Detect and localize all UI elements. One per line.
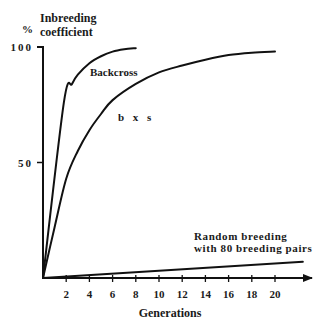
series-line-random-breeding [43, 262, 303, 278]
x-axis-title: Generations [139, 306, 202, 320]
x-tick-label: 8 [133, 288, 139, 300]
x-tick-label: 2 [63, 288, 69, 300]
x-tick-label: 10 [154, 288, 166, 300]
y-tick-label: 100 [11, 41, 34, 53]
x-tick-label: 6 [110, 288, 116, 300]
series-label-backcross: Backcross [90, 66, 138, 78]
x-tick-label: 4 [87, 288, 93, 300]
x-tick-label: 16 [223, 288, 235, 300]
x-tick-label: 12 [177, 288, 189, 300]
x-tick-label: 20 [270, 288, 282, 300]
y-unit-label: % [22, 23, 33, 35]
series-label-bxs: b x s [118, 111, 154, 123]
y-axis-title-line-2: coefficient [40, 25, 93, 39]
series-label-random-line-1: Random breeding [194, 230, 287, 242]
inbreeding-chart: % Inbreeding coefficient Generations 246… [0, 0, 328, 332]
x-tick-label: 14 [200, 288, 212, 300]
y-tick-label: 50 [18, 157, 33, 169]
y-axis-title-line-1: Inbreeding [40, 11, 96, 25]
series-line-backcross [43, 48, 136, 278]
x-tick-label: 18 [246, 288, 258, 300]
y-ticks: 50100 [11, 41, 44, 169]
series-label-random-line-2: with 80 breeding pairs [194, 242, 313, 254]
